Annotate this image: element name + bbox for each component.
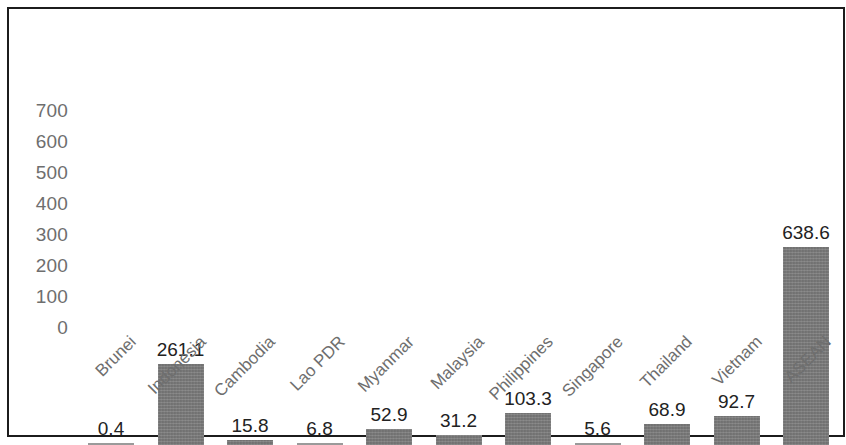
bar[interactable] — [436, 435, 482, 445]
y-axis-tick-label: 300 — [22, 225, 68, 244]
bar-group[interactable]: 5.6 — [575, 118, 621, 445]
bar[interactable] — [644, 424, 690, 445]
bar-value-label: 5.6 — [558, 419, 638, 438]
bar-group[interactable]: 31.2 — [436, 118, 482, 445]
bar-value-label: 68.9 — [627, 400, 707, 419]
y-axis-tick-label: 600 — [22, 132, 68, 151]
y-axis-tick-label: 700 — [22, 101, 68, 120]
bar-group[interactable]: 103.3 — [505, 118, 551, 445]
bar-value-label: 638.6 — [766, 223, 846, 242]
bar[interactable] — [227, 440, 273, 445]
y-axis-tick-label: 500 — [22, 163, 68, 182]
y-axis-tick-label: 400 — [22, 194, 68, 213]
bar-value-label: 52.9 — [349, 405, 429, 424]
y-axis: 0100200300400500600700 — [22, 0, 68, 445]
bar-value-label: 0.4 — [71, 419, 151, 438]
bar-group[interactable]: 15.8 — [227, 118, 273, 445]
bar-value-label: 15.8 — [210, 416, 290, 435]
bar-group[interactable]: 638.6 — [783, 118, 829, 445]
bar[interactable] — [505, 413, 551, 445]
bar[interactable] — [714, 416, 760, 445]
bar[interactable] — [366, 429, 412, 445]
bar-value-label: 31.2 — [419, 411, 499, 430]
y-axis-tick-label: 0 — [22, 318, 68, 337]
bar-group[interactable]: 68.9 — [644, 118, 690, 445]
bar-group[interactable]: 52.9 — [366, 118, 412, 445]
y-axis-tick-label: 100 — [22, 287, 68, 306]
bar-group[interactable]: 6.8 — [297, 118, 343, 445]
bar-value-label: 92.7 — [697, 392, 777, 411]
y-axis-tick-label: 200 — [22, 256, 68, 275]
bar-group[interactable]: 92.7 — [714, 118, 760, 445]
bar-group[interactable]: 0.4 — [88, 118, 134, 445]
bar-value-label: 6.8 — [280, 419, 360, 438]
bar-group[interactable]: 261.1 — [158, 118, 204, 445]
